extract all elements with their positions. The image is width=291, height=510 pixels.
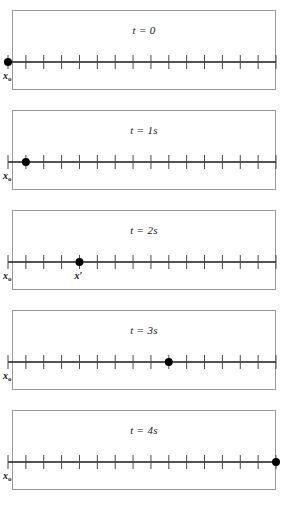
point-label-prime: ′ <box>79 270 82 281</box>
point-label-x-naught: xo <box>3 470 12 481</box>
point-label-subscript: o <box>8 375 12 383</box>
time-label-t4-text: t = 4s <box>130 424 158 436</box>
point-label-subscript: o <box>8 475 12 483</box>
point-label-x-naught: xo <box>3 370 12 381</box>
time-label-t3-text: t = 3s <box>130 324 158 336</box>
time-label-t1: t = 1s <box>12 124 276 136</box>
number-line-figure: t = 0 t = 1s t = 2s t = 3s t = 4s xoxoxo… <box>0 0 291 510</box>
point-label-x-naught: xo <box>3 70 12 81</box>
panel-t2 <box>12 210 276 290</box>
time-label-t1-text: t = 1s <box>130 124 158 136</box>
position-marker-dot <box>4 58 12 66</box>
panel-t3 <box>12 310 276 390</box>
point-label-x-prime: x′ <box>74 270 82 281</box>
time-label-t4: t = 4s <box>12 424 276 436</box>
point-label-subscript: o <box>8 75 12 83</box>
panel-t1 <box>12 110 276 190</box>
time-label-t2-text: t = 2s <box>130 224 158 236</box>
panel-t0 <box>12 10 276 90</box>
point-label-subscript: o <box>8 275 12 283</box>
time-label-t2: t = 2s <box>12 224 276 236</box>
point-label-x-naught: xo <box>3 270 12 281</box>
point-label-subscript: o <box>8 175 12 183</box>
time-label-t0: t = 0 <box>12 24 276 36</box>
time-label-t0-text: t = 0 <box>133 24 156 36</box>
point-label-x-naught: xo <box>3 170 12 181</box>
panel-t4 <box>12 410 276 490</box>
time-label-t3: t = 3s <box>12 324 276 336</box>
